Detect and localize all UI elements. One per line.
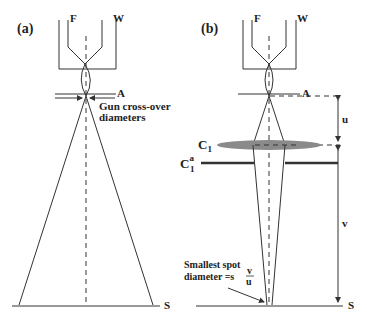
distance-u-label: u xyxy=(342,113,348,125)
beam-right-lower-b xyxy=(272,145,285,305)
filament-a xyxy=(68,20,102,64)
spot-annotation-line1: Smallest spot xyxy=(184,259,241,270)
beam-left-upper-b xyxy=(253,96,269,145)
specimen-label-b: S xyxy=(348,299,354,311)
crossover-label-a: A xyxy=(117,87,125,99)
filament-label-b: F xyxy=(254,12,261,24)
beam-left-lower-b xyxy=(253,145,267,305)
distance-v-label: v xyxy=(342,217,348,229)
filament-label-a: F xyxy=(70,12,77,24)
fraction-numerator: v xyxy=(247,265,252,276)
panel-label-b: (b) xyxy=(201,21,218,37)
electron-optics-diagram: (a) F W A Gun cross-over diameters S xyxy=(0,0,367,317)
beam-right-upper-b xyxy=(269,96,285,145)
annotation-line2-a: diameters xyxy=(99,111,146,123)
panel-a xyxy=(12,20,160,306)
wehnelt-label-b: W xyxy=(297,12,308,24)
beam-right-a xyxy=(86,96,153,305)
crossover-label-b: A xyxy=(302,87,310,99)
spot-pointer-arrow xyxy=(228,288,264,302)
aperture-label-sub: 1 xyxy=(190,164,195,174)
wehnelt-label-a: W xyxy=(113,12,124,24)
lens-label-c1: C1 xyxy=(198,137,212,154)
spot-annotation-line2: diameter =s xyxy=(184,271,234,282)
specimen-label-a: S xyxy=(164,299,170,311)
beam-left-a xyxy=(19,96,86,305)
wehnelt-cup-b xyxy=(243,20,296,69)
panel-label-a: (a) xyxy=(17,21,34,37)
fraction-denominator: u xyxy=(246,276,252,287)
